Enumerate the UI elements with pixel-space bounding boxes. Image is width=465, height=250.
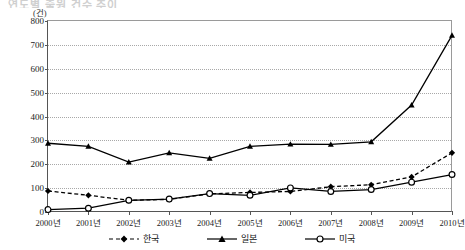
data-point-한국	[85, 192, 91, 198]
data-point-미국	[449, 172, 455, 178]
y-axis-tick-label: 300	[12, 135, 44, 145]
x-axis-tick-label: 2006년	[278, 216, 303, 228]
plot-area: 01002003004005006007008002000년2001년2002년…	[47, 20, 452, 212]
y-axis-tick-label: 200	[12, 159, 44, 169]
solid-triangle-marker-icon	[207, 234, 237, 244]
page-title: 연도별 출원 건수 추이	[8, 0, 308, 8]
data-point-미국	[86, 205, 92, 211]
x-axis-tick-label: 2000년	[36, 216, 61, 228]
data-point-일본	[409, 102, 415, 107]
legend-label-korea: 한국	[143, 232, 159, 245]
data-point-미국	[45, 207, 51, 213]
data-point-일본	[449, 32, 455, 37]
series-line-일본	[48, 35, 452, 162]
y-axis-tick-label: 700	[12, 40, 44, 50]
x-axis-tick-label: 2010년	[440, 216, 465, 228]
legend-label-japan: 일본	[241, 232, 257, 245]
data-point-미국	[207, 191, 213, 197]
dashed-diamond-marker-icon	[109, 234, 139, 244]
data-point-미국	[409, 179, 415, 185]
chart-legend: 한국 일본 미국	[0, 232, 463, 245]
y-axis-tick-label: 600	[12, 64, 44, 74]
data-point-미국	[288, 185, 294, 191]
data-point-한국	[449, 150, 455, 156]
legend-item-korea[interactable]: 한국	[109, 232, 159, 245]
x-axis-tick-label: 2002년	[116, 216, 141, 228]
series-layer	[48, 21, 453, 213]
x-axis-tick-label: 2005년	[238, 216, 263, 228]
x-axis-tick-label: 2009년	[399, 216, 424, 228]
data-point-미국	[328, 189, 334, 195]
y-axis-tick-label: 500	[12, 88, 44, 98]
x-axis-tick-label: 2007년	[318, 216, 343, 228]
open-circle-marker-icon	[305, 234, 335, 244]
x-axis-tick-label: 2008년	[359, 216, 384, 228]
data-point-미국	[247, 192, 253, 198]
data-point-미국	[166, 196, 172, 202]
legend-item-japan[interactable]: 일본	[207, 232, 257, 245]
x-axis-tick-label: 2001년	[76, 216, 101, 228]
data-point-미국	[368, 187, 374, 193]
y-axis-tick-label: 100	[12, 183, 44, 193]
y-axis-tick-label: 400	[12, 112, 44, 122]
x-axis-tick-label: 2003년	[157, 216, 182, 228]
x-axis-tick-label: 2004년	[197, 216, 222, 228]
y-axis-tick-label: 800	[12, 16, 44, 26]
legend-item-usa[interactable]: 미국	[305, 232, 355, 245]
legend-label-usa: 미국	[339, 232, 355, 245]
data-point-미국	[126, 197, 132, 203]
